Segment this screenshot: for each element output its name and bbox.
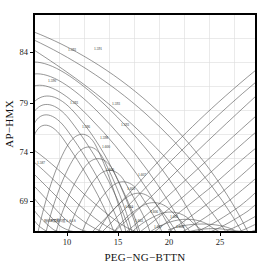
x-tick-label: 25 — [216, 237, 225, 247]
contour-label: 1.593 — [68, 48, 76, 52]
contour-label: 1.606 — [150, 210, 158, 214]
x-axis-tick-labels: 10 15 20 25 — [63, 237, 225, 247]
contour-label: 1.604 — [125, 205, 133, 209]
contour-label: 1.590 — [48, 79, 56, 83]
contour-label: 1.596 — [82, 125, 90, 129]
contour-label: 1.593 — [112, 102, 120, 106]
contour-label: 1.593 — [121, 123, 129, 127]
x-axis-title: PEG−NG−BTTN — [104, 251, 185, 263]
contour-label: 1.607 — [154, 225, 162, 229]
contour-plot-svg: 10 15 20 25 84 79 74 69 PEG−NG−BTTN AP−H… — [0, 0, 266, 268]
contour-label: 1.607 — [138, 173, 146, 177]
y-axis-tick-labels: 84 79 74 69 — [20, 47, 29, 206]
contour-plot-figure: 10 15 20 25 84 79 74 69 PEG−NG−BTTN AP−H… — [0, 0, 266, 268]
y-tick-label: 74 — [20, 147, 29, 157]
x-tick-label: 10 — [63, 237, 72, 247]
contour-label: 1.600 — [102, 145, 110, 149]
contour-label: 1.591 — [94, 47, 102, 51]
y-axis-title: AP−HMX — [3, 100, 15, 148]
contour-label: 1.600 — [106, 168, 114, 172]
contour-label: 1.603 — [127, 187, 135, 191]
contour-label: 1.593 — [70, 101, 78, 105]
contour-label: 1.587 — [37, 161, 45, 165]
contour-label: 1.605 — [170, 215, 178, 219]
x-tick-label: 20 — [165, 237, 174, 247]
max-density-annotation: 理论密度最大值 1.615 — [44, 218, 76, 223]
y-tick-label: 69 — [20, 196, 29, 206]
x-tick-label: 15 — [114, 237, 123, 247]
contour-label: 1.598 — [100, 136, 108, 140]
contour-label: 1.603 — [135, 219, 143, 223]
y-tick-label: 79 — [20, 98, 29, 108]
contour-label: 1.608 — [176, 225, 184, 229]
y-tick-label: 84 — [20, 47, 29, 57]
